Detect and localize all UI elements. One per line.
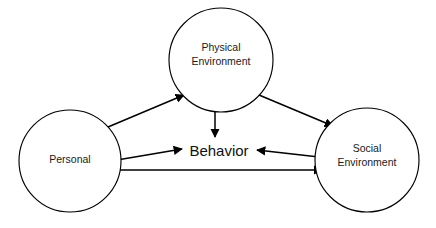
reciprocal-determinism-diagram: Physical Environment Personal Social Env… (0, 0, 436, 228)
arrow-physical-social (259, 95, 333, 126)
node-social-environment[interactable]: Social Environment (315, 108, 419, 212)
behavior-label: Behavior (189, 142, 248, 159)
node-physical-environment[interactable]: Physical Environment (169, 8, 273, 112)
arrow-personal-physical (108, 95, 184, 127)
social-environment-label-line2: Environment (338, 156, 397, 168)
node-personal[interactable]: Personal (19, 110, 121, 212)
arrow-social-behavior (257, 150, 319, 157)
physical-environment-label-line1: Physical (201, 41, 240, 53)
arrow-personal-behavior (117, 149, 182, 160)
social-environment-label-line1: Social (353, 142, 382, 154)
diagram-canvas: Physical Environment Personal Social Env… (0, 0, 436, 228)
physical-environment-label-line2: Environment (192, 55, 251, 67)
personal-label-line1: Personal (49, 153, 90, 165)
